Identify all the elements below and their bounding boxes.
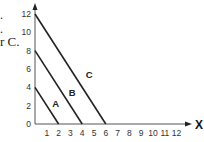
line-chart: X 123456789101112024681012 ABC	[0, 0, 204, 142]
x-tick-label: 4	[80, 128, 85, 138]
y-tick-label: 2	[26, 101, 31, 111]
y-tick-label: 0	[26, 119, 31, 129]
y-tick-label: 10	[22, 27, 32, 37]
y-tick-label: 8	[26, 46, 31, 56]
y-tick-label: 12	[22, 9, 32, 19]
axes: X	[33, 3, 204, 132]
series-line-c	[35, 14, 106, 124]
x-tick-label: 7	[115, 128, 120, 138]
series-label-c: C	[86, 69, 93, 80]
x-axis-label: X	[195, 118, 203, 132]
series-labels: ABC	[52, 69, 93, 108]
x-tick-label: 5	[92, 128, 97, 138]
x-tick-label: 9	[139, 128, 144, 138]
x-tick-label: 8	[127, 128, 132, 138]
series-label-a: A	[52, 98, 59, 109]
x-tick-label: 3	[68, 128, 73, 138]
x-tick-label: 2	[56, 128, 61, 138]
x-tick-label: 12	[172, 128, 182, 138]
series-label-b: B	[69, 87, 76, 98]
x-tick-label: 1	[44, 128, 49, 138]
x-tick-label: 6	[103, 128, 108, 138]
x-tick-label: 11	[160, 128, 169, 138]
y-axis-arrow-icon	[33, 3, 38, 10]
y-tick-label: 6	[26, 64, 31, 74]
x-axis-arrow-icon	[185, 122, 192, 127]
series-lines	[35, 14, 106, 124]
x-tick-label: 10	[148, 128, 158, 138]
y-tick-label: 4	[26, 82, 31, 92]
